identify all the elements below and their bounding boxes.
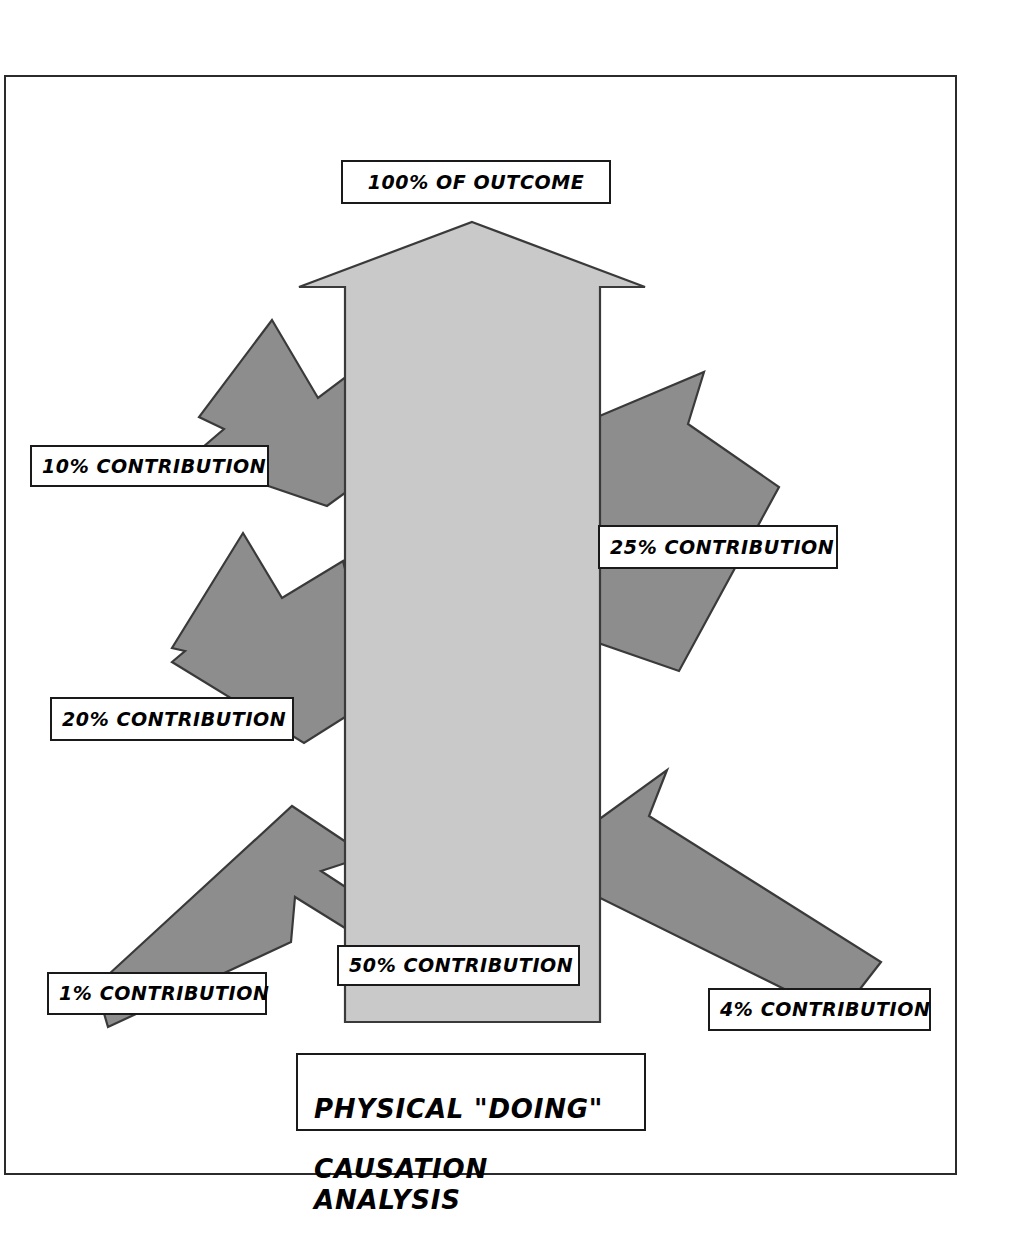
label-contribution-50: 50% CONTRIBUTION [337,945,580,986]
label-contribution-20-text: 20% CONTRIBUTION [62,710,286,729]
diagram-canvas: 100% OF OUTCOME 10% CONTRIBUTION 20% CON… [0,0,1019,1250]
label-contribution-25-text: 25% CONTRIBUTION [610,538,834,557]
label-contribution-10-text: 10% CONTRIBUTION [42,457,266,476]
label-contribution-1-text: 1% CONTRIBUTION [59,984,270,1003]
label-contribution-4-text: 4% CONTRIBUTION [720,1000,931,1019]
diagram-title: PHYSICAL "DOING" CAUSATION ANALYSIS [296,1053,646,1131]
label-outcome-100: 100% OF OUTCOME [341,160,611,204]
label-contribution-20: 20% CONTRIBUTION [50,697,294,741]
label-contribution-4: 4% CONTRIBUTION [708,988,931,1031]
label-outcome-100-text: 100% OF OUTCOME [368,173,585,192]
label-contribution-10: 10% CONTRIBUTION [30,445,269,487]
arrow-main-outcome [299,222,645,1022]
diagram-title-line-1: PHYSICAL "DOING" [314,1094,630,1124]
diagram-title-line-2: CAUSATION ANALYSIS [314,1154,630,1214]
label-contribution-50-text: 50% CONTRIBUTION [349,956,573,975]
label-contribution-25: 25% CONTRIBUTION [598,525,838,569]
label-contribution-1: 1% CONTRIBUTION [47,972,267,1015]
